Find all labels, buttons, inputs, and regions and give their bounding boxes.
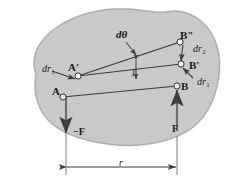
vector-label-dr1-at-A-subscript: 1 bbox=[51, 68, 54, 75]
vector-label-dr2-at-B-subscript: 2 bbox=[202, 48, 205, 55]
point-label-B: B bbox=[181, 81, 188, 92]
vector-label-dr2-at-B-symbol: dr bbox=[193, 43, 202, 54]
point-label-Aprime-letter: A bbox=[68, 61, 76, 73]
node-A bbox=[60, 94, 66, 100]
angle-label-d-theta: dθ bbox=[116, 29, 127, 40]
vector-label-dr1-at-B-symbol: dr bbox=[197, 76, 206, 87]
vector-label-dr1-at-A-symbol: dr bbox=[42, 63, 51, 74]
vector-label-dr1-at-A: dr1 bbox=[42, 64, 55, 76]
point-label-Aprime-mark: ' bbox=[76, 61, 79, 73]
point-label-Bdoubleprime-mark: " bbox=[187, 29, 193, 41]
node-B bbox=[174, 83, 180, 89]
dimension-label-r: r bbox=[119, 158, 123, 168]
vector-label-dr2-at-B: dr2 bbox=[193, 44, 206, 56]
node-Bprime bbox=[178, 61, 184, 67]
vector-label-dr1-at-B: dr1 bbox=[197, 77, 210, 89]
point-label-Bprime-mark: ' bbox=[196, 59, 199, 71]
node-Aprime bbox=[75, 73, 81, 79]
point-label-Bprime: B' bbox=[189, 60, 199, 71]
point-label-Aprime: A' bbox=[68, 62, 79, 73]
force-label-positive-F: F bbox=[172, 124, 178, 134]
rigid-body-couple-figure: A A' B B' B" dr1 dr2 dr1 dθ l −F F r bbox=[0, 0, 233, 180]
length-label-l: l bbox=[132, 68, 135, 78]
figure-canvas bbox=[0, 0, 233, 180]
force-label-negative-F: −F bbox=[73, 127, 85, 137]
vector-label-dr1-at-B-subscript: 1 bbox=[206, 81, 209, 88]
point-label-A: A bbox=[52, 86, 60, 97]
point-label-Bdoubleprime: B" bbox=[180, 30, 193, 41]
